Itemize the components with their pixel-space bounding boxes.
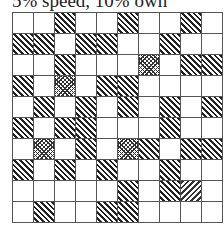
grid-cell-empty [118,160,139,181]
grid-cell-hatch [160,118,181,139]
grid-cell-empty [97,139,118,160]
grid-cell-empty [202,160,223,181]
grid-cell-hatch [55,160,76,181]
cell-grid [12,12,223,223]
grid-cell-hatch [202,55,223,76]
grid-cell-empty [160,55,181,76]
grid-cell-empty [55,202,76,223]
grid-cell-empty [202,202,223,223]
grid-cell-hatch [76,34,97,55]
grid-cell-empty [13,139,34,160]
grid-cell-empty [139,160,160,181]
grid-cell-empty [76,13,97,34]
grid-cell-empty [13,13,34,34]
grid-cell-empty [34,55,55,76]
grid-cell-empty [34,13,55,34]
grid-cell-hatch [118,97,139,118]
grid-cell-dots [118,139,139,160]
grid-cell-empty [97,97,118,118]
grid-cell-empty [160,13,181,34]
grid-cell-hatch [13,118,34,139]
grid-cell-empty [55,97,76,118]
grid-cell-hatch [97,34,118,55]
grid-cell-hatch [160,160,181,181]
grid-cell-empty [97,181,118,202]
grid-cell-empty [202,13,223,34]
grid-cell-empty [76,160,97,181]
grid-cell-empty [97,55,118,76]
grid-cell-hatch [160,97,181,118]
grid-cell-hatch [118,13,139,34]
grid-cell-empty [76,76,97,97]
grid-cell-hatch [34,97,55,118]
grid-cell-hatch [13,34,34,55]
grid-cell-empty [181,202,202,223]
grid-cell-hatch [76,97,97,118]
grid-cell-hatch [118,202,139,223]
diagram-title: 5% speed, 10% own [12,0,167,11]
grid-cell-hatch [34,202,55,223]
grid-cell-hatch [97,76,118,97]
grid-cell-empty [202,118,223,139]
grid-cell-hatch [76,139,97,160]
grid-cell-empty [55,34,76,55]
grid-cell-empty [181,97,202,118]
grid-cell-empty [160,202,181,223]
grid-cell-empty [34,76,55,97]
grid-cell-empty [76,55,97,76]
grid-cell-empty [97,13,118,34]
grid-cell-empty [118,34,139,55]
grid-cell-hatch [118,181,139,202]
grid-cell-empty [181,76,202,97]
grid-cell-empty [55,139,76,160]
grid-cell-hatch [160,34,181,55]
grid-cell-hatch [181,13,202,34]
grid-cell-hatch [139,139,160,160]
grid-cell-hatch [181,139,202,160]
grid-cell-empty [181,160,202,181]
grid-cell-empty [13,202,34,223]
grid-cell-empty [160,76,181,97]
grid-cell-dots [34,139,55,160]
grid-cell-hatch [55,118,76,139]
grid-cell-empty [76,181,97,202]
grid-cell-empty [139,13,160,34]
grid-cell-empty [139,97,160,118]
grid-cell-hatch [13,160,34,181]
grid-cell-rhatch [181,181,202,202]
grid-cell-empty [181,34,202,55]
grid-cell-hatch [118,76,139,97]
grid-cell-empty [97,118,118,139]
grid-cell-hatch [202,139,223,160]
grid-cell-empty [55,181,76,202]
grid-cell-hatch [160,181,181,202]
grid-cell-empty [139,118,160,139]
grid-cell-hatch [97,160,118,181]
grid-cell-empty [202,181,223,202]
grid-cell-empty [118,55,139,76]
grid-cell-empty [181,118,202,139]
grid-cell-empty [139,202,160,223]
grid-cell-dots [55,76,76,97]
grid-cell-empty [202,34,223,55]
grid-cell-empty [13,55,34,76]
grid-cell-hatch [202,97,223,118]
grid-cell-empty [139,181,160,202]
grid-cell-hatch [97,202,118,223]
grid-cell-empty [118,118,139,139]
grid-cell-empty [139,34,160,55]
grid-cell-dots [139,55,160,76]
grid-cell-empty [160,139,181,160]
grid-cell-hatch [76,118,97,139]
grid-cell-empty [202,76,223,97]
grid-cell-hatch [13,76,34,97]
grid-cell-empty [34,118,55,139]
grid-cell-empty [13,97,34,118]
grid-cell-empty [34,181,55,202]
grid-cell-hatch [55,55,76,76]
grid-cell-empty [13,181,34,202]
grid-cell-hatch [181,55,202,76]
grid-cell-empty [76,202,97,223]
grid-cell-hatch [55,13,76,34]
grid-cell-empty [139,76,160,97]
